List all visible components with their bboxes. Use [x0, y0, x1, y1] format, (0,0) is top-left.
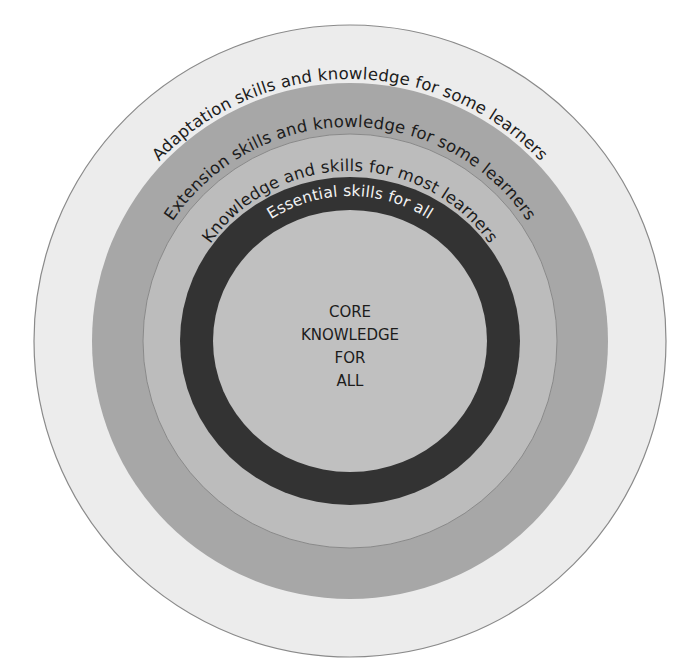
- core-label-line-4: ALL: [337, 372, 365, 390]
- core-label-line-3: FOR: [335, 349, 366, 367]
- core-label-line-1: CORE: [329, 303, 371, 321]
- core-label-line-2: KNOWLEDGE: [301, 326, 399, 344]
- concentric-curriculum-diagram: Adaptation skills and knowledge for some…: [0, 0, 698, 666]
